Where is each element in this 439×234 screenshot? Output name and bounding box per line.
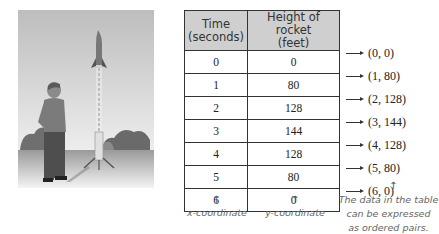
header-time-line1: Time [185, 18, 247, 31]
arrow-right-icon [346, 53, 362, 54]
table-row: 00 [185, 51, 340, 74]
x-coordinate-label: x-coordinate [183, 206, 251, 220]
table-row: 180 [185, 74, 340, 97]
time-cell: 1 [185, 74, 248, 97]
ordered-pairs-list: (0, 0) (1, 80) (2, 128) (3, 144) (4, 128… [346, 42, 406, 203]
header-time-line2: (seconds) [185, 31, 247, 44]
time-cell: 4 [185, 143, 248, 166]
ordered-pair: (3, 144) [346, 111, 406, 134]
arrow-right-icon [346, 122, 362, 123]
ordered-pairs-note: The data in the table can be expressed a… [338, 193, 439, 234]
header-height-line1: Height of rocket [248, 11, 339, 37]
time-cell: 3 [185, 120, 248, 143]
pair-text: (4, 128) [368, 138, 406, 153]
height-cell: 80 [248, 166, 340, 189]
height-cell: 144 [248, 120, 340, 143]
arrow-right-icon [346, 191, 362, 192]
header-time: Time (seconds) [185, 11, 248, 51]
ordered-pair: (0, 0) [346, 42, 406, 65]
table-header-row: Time (seconds) Height of rocket (feet) [185, 11, 340, 51]
note-line-3: as ordered pairs. [338, 221, 439, 234]
table-row: 3144 [185, 120, 340, 143]
pair-text: (3, 144) [368, 115, 406, 130]
arrow-up-icon: ↑ [212, 194, 220, 205]
ordered-pair: (4, 128) [346, 134, 406, 157]
table-row: 2128 [185, 97, 340, 120]
ordered-pair: (1, 80) [346, 65, 406, 88]
arrow-up-icon: ↑ [389, 180, 397, 191]
pair-text: (1, 80) [368, 69, 400, 84]
pair-text: (5, 80) [368, 161, 400, 176]
rocket-launch-illustration [18, 10, 154, 188]
arrow-up-icon: ↑ [291, 194, 299, 205]
rocket-height-table: Time (seconds) Height of rocket (feet) 0… [184, 10, 340, 212]
rocket-scene-icon [18, 10, 154, 188]
height-cell: 128 [248, 97, 340, 120]
arrow-right-icon [346, 76, 362, 77]
arrow-right-icon [346, 145, 362, 146]
table-row: 4128 [185, 143, 340, 166]
arrow-right-icon [346, 168, 362, 169]
header-height-line2: (feet) [248, 37, 339, 50]
time-cell: 0 [185, 51, 248, 74]
height-cell: 0 [248, 51, 340, 74]
ordered-pair: (2, 128) [346, 88, 406, 111]
table-row: 580 [185, 166, 340, 189]
time-cell: 5 [185, 166, 248, 189]
arrow-right-icon [346, 99, 362, 100]
height-cell: 128 [248, 143, 340, 166]
note-line-1: The data in the table [338, 193, 439, 207]
pair-text: (0, 0) [368, 46, 394, 61]
header-height: Height of rocket (feet) [248, 11, 340, 51]
height-cell: 80 [248, 74, 340, 97]
y-coordinate-label: y-coordinate [260, 206, 330, 220]
pair-text: (2, 128) [368, 92, 406, 107]
note-line-2: can be expressed [338, 207, 439, 221]
time-cell: 2 [185, 97, 248, 120]
ordered-pair: (5, 80) [346, 157, 406, 180]
